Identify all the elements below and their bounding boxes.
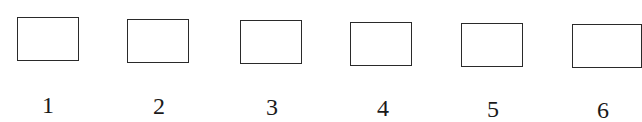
- box-3: [240, 20, 302, 64]
- box-label-6: 6: [583, 98, 623, 122]
- box-1: [17, 17, 79, 61]
- box-label-3: 3: [252, 95, 292, 119]
- box-label-4: 4: [363, 96, 403, 120]
- box-6: [572, 24, 642, 68]
- box-5: [461, 23, 523, 67]
- box-label-1: 1: [28, 93, 68, 117]
- box-2: [127, 19, 189, 63]
- box-4: [350, 22, 412, 66]
- box-label-5: 5: [473, 97, 513, 121]
- box-label-2: 2: [139, 94, 179, 118]
